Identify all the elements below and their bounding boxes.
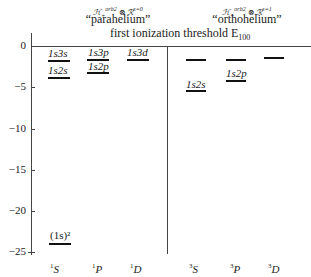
threshold-subscript: 100	[238, 33, 250, 42]
level-label-1s3d: 1s3d	[127, 46, 148, 58]
y-tick-10: −10	[0, 122, 26, 134]
tick-mark	[28, 252, 35, 253]
term-3P: 3P	[230, 262, 240, 275]
tick-mark	[31, 170, 35, 171]
term-letter: P	[96, 263, 103, 275]
level-label-ortho-1s2s: 1s2s	[186, 78, 206, 90]
level-label-1s2s: 1s2s	[48, 64, 68, 76]
term-3S: 3S	[189, 262, 198, 275]
term-1D: 1D	[130, 262, 141, 275]
level-label-ortho-1s2p: 1s2p	[226, 67, 247, 79]
energy-level-ortho-1s2s	[186, 90, 206, 92]
energy-level-ortho-1s2p	[226, 80, 246, 82]
level-label-1s-squared: (1s)²	[50, 229, 70, 241]
tick-mark	[31, 87, 35, 88]
term-letter: S	[54, 263, 60, 275]
level-label-1s3p: 1s3p	[88, 46, 109, 58]
y-tick-0: 0	[0, 39, 26, 51]
y-tick-20: −20	[0, 204, 26, 216]
y-tick-15: −15	[0, 163, 26, 175]
ionization-threshold-label: first ionization threshold E100	[110, 26, 250, 42]
energy-level-3s-n3	[186, 59, 206, 61]
term-letter: D	[272, 263, 280, 275]
energy-level-1s2s	[48, 77, 70, 79]
term-3D: 3D	[268, 262, 279, 275]
group-divider	[167, 46, 168, 254]
energy-level-1s3d	[127, 59, 149, 61]
level-label-1s3s: 1s3s	[48, 47, 68, 59]
y-tick-5: −5	[0, 80, 26, 92]
term-letter: S	[193, 263, 199, 275]
parahelium-label: “parahelium”	[63, 14, 173, 25]
energy-level-3p-n3	[226, 59, 246, 61]
term-1S: 1S	[50, 262, 59, 275]
zero-threshold-line	[31, 46, 311, 47]
orthohelium-label: “orthohelium”	[192, 14, 302, 25]
y-tick-25: −25	[0, 245, 26, 257]
threshold-text: first ionization threshold E	[110, 26, 238, 40]
tick-mark	[31, 129, 35, 130]
energy-level-1s3s	[48, 60, 70, 62]
tick-mark	[31, 211, 35, 212]
level-label-1s2p: 1s2p	[88, 60, 109, 72]
term-letter: D	[134, 263, 142, 275]
energy-level-3d-n3	[264, 57, 284, 59]
y-axis	[31, 33, 32, 255]
energy-level-1s2p	[87, 72, 109, 74]
energy-level-ground	[49, 243, 71, 245]
term-letter: P	[234, 263, 241, 275]
term-1P: 1P	[92, 262, 102, 275]
